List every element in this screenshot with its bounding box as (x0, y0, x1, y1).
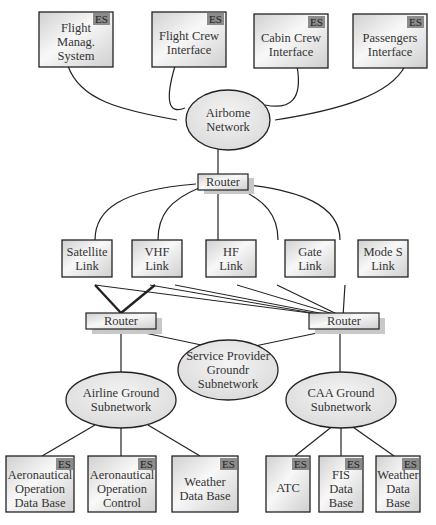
router-ground-left: Router (86, 313, 156, 329)
label: Router (327, 314, 361, 328)
airline-ground-subnetwork: Airline Ground Subnetwork (66, 385, 176, 415)
label: FIS Data Base (329, 468, 353, 510)
label: Mode S Link (363, 245, 402, 273)
label: Gate Link (298, 245, 322, 273)
label: Satellite Link (67, 245, 108, 273)
label: Router (104, 314, 138, 328)
es-badge: ES (220, 458, 237, 470)
label: Service Provider Groundr Subnetwork (186, 349, 270, 391)
es-badge: ES (292, 458, 309, 470)
label: Airbome Network (206, 106, 250, 134)
label: ATC (276, 481, 300, 495)
service-provider-subnetwork: Service Provider Groundr Subnetwork (178, 347, 278, 393)
label: Aeronautical Operation Data Base (8, 468, 73, 510)
label: Weather Data Base (179, 475, 230, 503)
label: VHF Link (144, 245, 169, 273)
es-badge: ES (308, 16, 325, 28)
label: Weather Data Base (377, 468, 418, 510)
label: Router (206, 175, 240, 189)
label: HF Link (219, 245, 243, 273)
es-badge: ES (402, 458, 419, 470)
router-ground-right: Router (309, 313, 379, 329)
label: Passengers Interface (363, 31, 418, 59)
es-badge: ES (56, 458, 73, 470)
es-badge: ES (345, 458, 362, 470)
label: Flight Crew Interface (159, 29, 219, 57)
label: Airline Ground Subnetwork (83, 386, 160, 414)
hf-link: HF Link (206, 240, 256, 277)
caa-ground-subnetwork: CAA Ground Subnetwork (286, 385, 396, 415)
label: Aeronautical Operation Control (90, 468, 155, 510)
atn-network-diagram: Flight Manag. System ES Flight Crew Inte… (0, 0, 436, 525)
es-badge: ES (407, 16, 424, 28)
es-badge: ES (93, 13, 110, 25)
mode-s-link: Mode S Link (358, 240, 408, 277)
label: Cabin Crew Interface (261, 31, 321, 59)
vhf-link: VHF Link (132, 240, 182, 277)
label: Flight Manag. System (57, 21, 95, 63)
gate-link: Gate Link (285, 240, 335, 277)
es-badge: ES (207, 13, 224, 25)
satellite-link: Satellite Link (62, 240, 112, 277)
router-airborne: Router (198, 174, 248, 190)
es-badge: ES (138, 458, 155, 470)
label: CAA Ground Subnetwork (307, 386, 374, 414)
airborne-network: Airbome Network (186, 100, 270, 140)
